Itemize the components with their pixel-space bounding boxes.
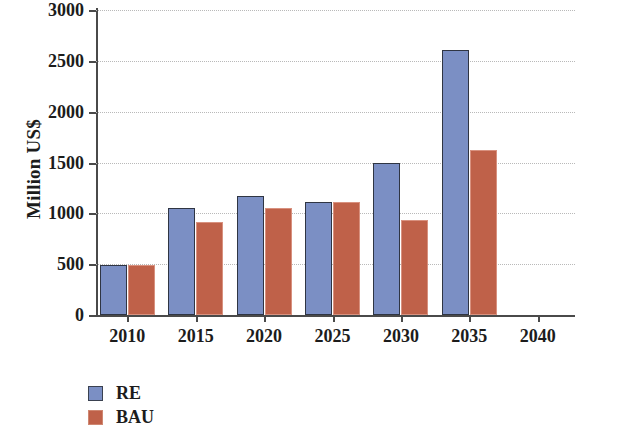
- legend-item-re: RE: [88, 381, 308, 405]
- plot-area: [96, 10, 575, 315]
- bar-bau-2020: [265, 208, 292, 315]
- chart-legend: REBAU: [88, 381, 308, 429]
- bar-bau-2035: [470, 150, 497, 315]
- x-axis-line: [96, 315, 575, 317]
- legend-label: RE: [116, 384, 141, 402]
- legend-item-bau: BAU: [88, 405, 308, 429]
- y-tick-label: 1500: [22, 154, 84, 172]
- x-tick-mark: [196, 315, 198, 322]
- grid-line: [96, 163, 575, 164]
- bar-re-2035: [442, 50, 469, 315]
- bar-re-2030: [373, 163, 400, 316]
- bar-re-2015: [168, 208, 195, 315]
- x-tick-mark: [127, 315, 129, 322]
- legend-label: BAU: [116, 408, 154, 426]
- x-tick-mark: [333, 315, 335, 322]
- y-tick-mark: [89, 315, 97, 317]
- x-tick-mark: [401, 315, 403, 322]
- bar-bau-2010: [128, 265, 155, 315]
- x-tick-mark: [469, 315, 471, 322]
- bar-bau-2015: [196, 222, 223, 315]
- x-tick-mark: [264, 315, 266, 322]
- grid-line: [96, 112, 575, 113]
- y-tick-label: 2000: [22, 103, 84, 121]
- y-tick-label: 0: [22, 306, 84, 324]
- grid-line: [96, 61, 575, 62]
- legend-swatch-bau: [88, 410, 103, 425]
- x-tick-label: 2040: [498, 327, 578, 347]
- bar-bau-2030: [401, 220, 428, 315]
- y-tick-label: 1000: [22, 204, 84, 222]
- bar-re-2020: [237, 196, 264, 315]
- grid-line: [96, 10, 575, 11]
- y-tick-label: 3000: [22, 1, 84, 19]
- x-tick-mark: [538, 315, 540, 322]
- bar-chart: Million US$ 050010001500200025003000 201…: [0, 0, 619, 432]
- bar-re-2025: [305, 202, 332, 315]
- legend-swatch-re: [88, 386, 103, 401]
- bar-bau-2025: [333, 202, 360, 315]
- y-tick-label: 500: [22, 255, 84, 273]
- bar-re-2010: [100, 265, 127, 315]
- y-tick-label: 2500: [22, 52, 84, 70]
